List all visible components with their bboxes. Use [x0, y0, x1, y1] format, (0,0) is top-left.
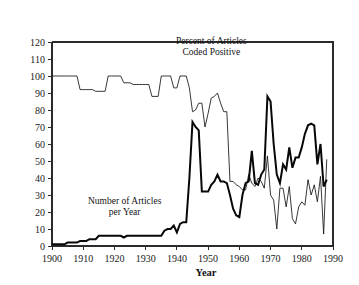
y-tick-label: 10: [35, 224, 45, 235]
count-series-label-line2: per Year: [88, 207, 161, 218]
y-tick-label: 0: [40, 241, 45, 252]
x-tick-label: 1900: [42, 253, 62, 264]
y-tick-label: 20: [35, 207, 45, 218]
y-tick-label: 110: [30, 54, 45, 65]
x-tick-label: 1980: [292, 253, 312, 264]
x-axis-title: Year: [196, 267, 217, 278]
y-tick-label: 60: [35, 139, 45, 150]
chart-container: 0102030405060708090100110120 19001910192…: [0, 0, 359, 285]
series-line-number-of-articles-per-year: [52, 96, 327, 244]
y-tick-label: 100: [30, 71, 45, 82]
count-series-label-line1: Number of Articles: [88, 196, 161, 207]
percent-series-label: Percent of Articles Coded Positive: [176, 36, 247, 58]
percent-series-label-line2: Coded Positive: [176, 47, 247, 58]
x-tick-label: 1970: [261, 253, 281, 264]
x-tick-label: 1990: [323, 253, 343, 264]
count-series-label: Number of Articles per Year: [88, 196, 161, 218]
x-tick-label: 1910: [73, 253, 93, 264]
x-tick-label: 1920: [104, 253, 124, 264]
y-tick-label: 80: [35, 105, 45, 116]
x-axis-ticks: 1900191019201930194019501960197019801990: [42, 246, 343, 264]
x-tick-label: 1960: [229, 253, 249, 264]
y-tick-label: 120: [30, 37, 45, 48]
y-tick-label: 70: [35, 122, 45, 133]
percent-series-label-line1: Percent of Articles: [176, 36, 247, 47]
x-tick-label: 1950: [198, 253, 218, 264]
x-tick-label: 1940: [167, 253, 187, 264]
y-axis-ticks: 0102030405060708090100110120: [30, 37, 52, 252]
x-tick-label: 1930: [136, 253, 156, 264]
y-tick-label: 90: [35, 88, 45, 99]
y-tick-label: 50: [35, 156, 45, 167]
y-tick-label: 40: [35, 173, 45, 184]
y-tick-label: 30: [35, 190, 45, 201]
